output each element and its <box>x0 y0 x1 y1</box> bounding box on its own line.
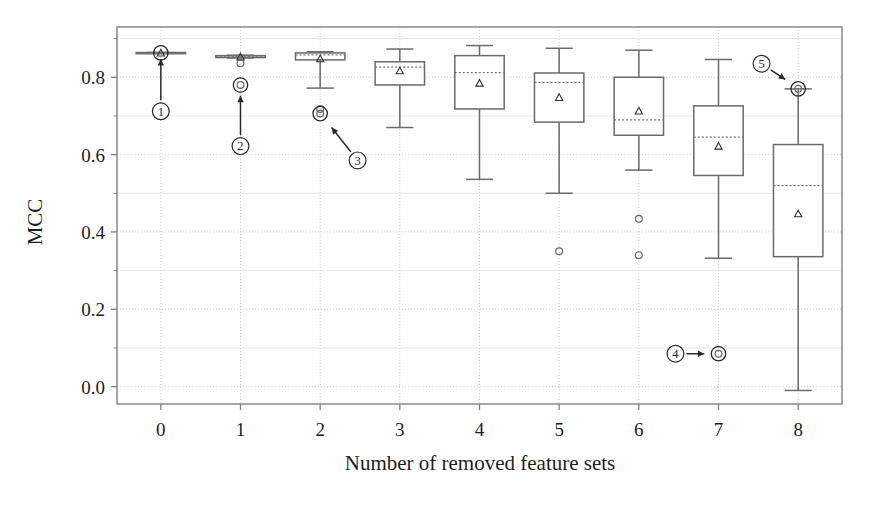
annotation-marker-label: 3 <box>354 154 360 168</box>
axis-ticks: 0.00.20.40.60.8012345678 <box>81 39 803 440</box>
boxplot-box <box>216 53 265 88</box>
x-tick-label: 6 <box>634 419 644 440</box>
boxplot-figure: 0.00.20.40.60.8012345678 12345 MCC Numbe… <box>0 0 878 508</box>
box-body <box>455 56 504 109</box>
annotation-marker-label: 1 <box>158 105 164 119</box>
annotation-marker-label: 5 <box>758 57 764 71</box>
x-tick-label: 3 <box>395 419 405 440</box>
x-tick-label: 0 <box>156 419 166 440</box>
x-tick-label: 7 <box>714 419 724 440</box>
box-body <box>534 73 583 122</box>
x-axis-label: Number of removed feature sets <box>345 451 616 475</box>
x-tick-label: 8 <box>793 419 803 440</box>
annotation-arrowhead <box>237 96 243 103</box>
y-tick-label: 0.8 <box>81 67 105 88</box>
y-tick-label: 0.2 <box>81 299 105 320</box>
annotation-arrowhead <box>778 73 785 79</box>
boxplot-box <box>534 48 583 254</box>
box-body <box>773 145 822 257</box>
boxplot-box <box>773 85 822 390</box>
annotation-marker-label: 2 <box>237 139 243 153</box>
boxplot-box <box>455 46 504 180</box>
y-tick-label: 0.0 <box>81 377 105 398</box>
x-tick-label: 5 <box>554 419 564 440</box>
box-series <box>136 46 823 391</box>
annotation-arrowhead <box>698 351 705 357</box>
y-axis-label: MCC <box>23 199 47 246</box>
box-body <box>694 106 743 176</box>
mcc-boxplot-chart: 0.00.20.40.60.8012345678 12345 MCC Numbe… <box>0 0 878 508</box>
y-tick-label: 0.6 <box>81 145 105 166</box>
x-tick-label: 2 <box>315 419 325 440</box>
outlier-point <box>556 248 563 255</box>
boxplot-box <box>295 52 344 117</box>
annotation-marker-label: 4 <box>672 347 679 361</box>
x-tick-label: 1 <box>236 419 246 440</box>
annotation-callout: 1 <box>152 46 169 120</box>
x-tick-label: 4 <box>475 419 485 440</box>
y-tick-label: 0.4 <box>81 222 105 243</box>
